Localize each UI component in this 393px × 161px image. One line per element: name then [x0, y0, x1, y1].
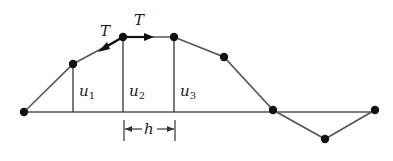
node-7 — [371, 106, 379, 114]
node-3 — [170, 33, 178, 41]
node-5 — [269, 106, 277, 114]
tension-label-left: T — [100, 22, 111, 40]
string-polyline — [24, 37, 375, 139]
displacement-label-u3: u3 — [180, 82, 196, 101]
tension-label-right: T — [134, 11, 145, 29]
string-nodes — [20, 33, 379, 143]
displacement-label-u2: u2 — [129, 82, 145, 101]
tension-arrow-right-icon — [144, 33, 154, 41]
spacing-arrowhead-right-icon — [167, 126, 174, 132]
spacing-label: h — [144, 120, 154, 138]
spacing-arrowhead-left-icon — [125, 126, 132, 132]
tension-arrow-left-icon — [98, 42, 110, 52]
node-0 — [20, 108, 28, 116]
node-4 — [220, 53, 228, 61]
string-diagram: T T u1 u2 u3 h — [0, 0, 393, 161]
node-2 — [119, 33, 127, 41]
node-1 — [69, 60, 77, 68]
displacement-label-u1: u1 — [79, 82, 95, 101]
node-6 — [321, 135, 329, 143]
